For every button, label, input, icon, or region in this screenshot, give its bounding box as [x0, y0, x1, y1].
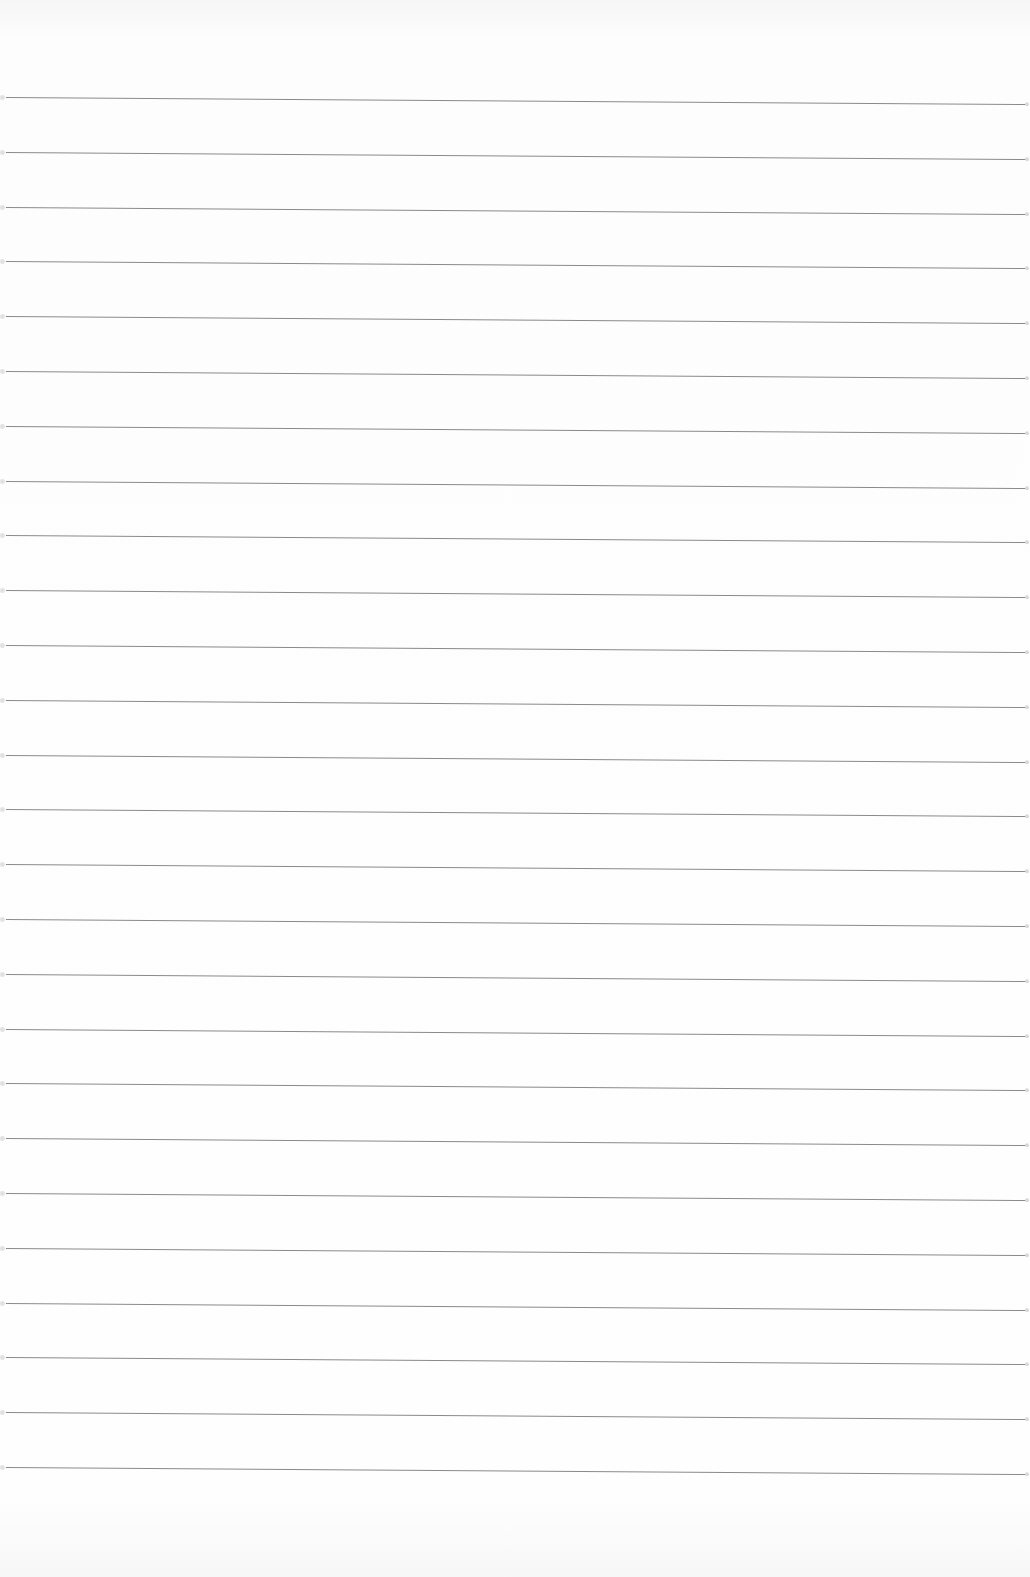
- ruled-line: [6, 700, 1026, 708]
- ruled-line: [6, 152, 1026, 160]
- ruled-line: [6, 1029, 1026, 1037]
- ruled-line: [6, 590, 1026, 598]
- ruled-line: [6, 919, 1026, 927]
- ruled-line: [6, 645, 1026, 653]
- ruled-line: [6, 426, 1026, 434]
- ruled-line: [6, 1138, 1026, 1146]
- ruled-line: [6, 207, 1026, 215]
- ruled-line: [6, 1193, 1026, 1201]
- ruled-line: [6, 755, 1026, 763]
- ruled-paper-sheet: [0, 0, 1030, 1577]
- ruled-line: [6, 481, 1026, 489]
- ruled-line: [6, 974, 1026, 982]
- ruled-line: [6, 316, 1026, 324]
- ruled-line: [6, 1412, 1026, 1420]
- ruled-line: [6, 261, 1026, 269]
- ruled-line: [6, 809, 1026, 817]
- ruled-line: [6, 535, 1026, 543]
- ruled-line: [6, 1248, 1026, 1256]
- ruled-line: [6, 864, 1026, 872]
- ruled-line: [6, 371, 1026, 379]
- ruled-line: [6, 1357, 1026, 1365]
- ruled-line: [6, 1083, 1026, 1091]
- ruled-line: [6, 97, 1026, 105]
- ruled-line: [6, 1467, 1026, 1475]
- ruled-line: [6, 1303, 1026, 1311]
